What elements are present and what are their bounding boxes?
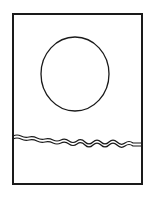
wave-line-bottom [13,138,142,147]
circle-sun [41,37,109,111]
line-drawing [0,0,154,197]
frame-border [13,14,142,184]
